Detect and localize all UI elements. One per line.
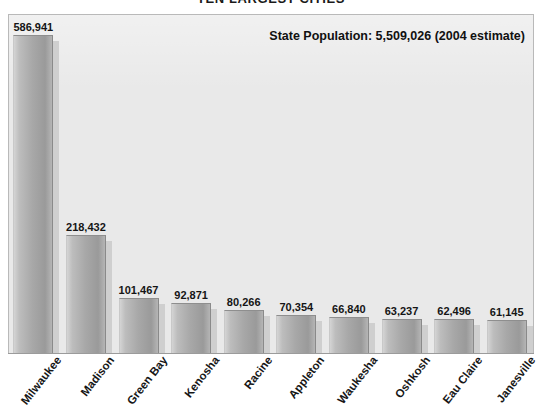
bar-value-label: 92,871 — [174, 289, 208, 301]
bar-value-label: 63,237 — [385, 305, 419, 317]
x-axis-label-text: Racine — [241, 354, 274, 391]
bar-slot: 63,237 — [382, 301, 430, 353]
x-axis-label-text: Oshkosh — [392, 354, 432, 400]
bar-slot: 62,496 — [434, 301, 482, 353]
bar[interactable] — [13, 35, 53, 353]
bar-slot: 66,840 — [329, 299, 377, 353]
bar-value-label: 586,941 — [13, 21, 53, 33]
bar[interactable] — [171, 303, 211, 353]
bar[interactable] — [434, 319, 474, 353]
bar[interactable] — [224, 310, 264, 353]
bar[interactable] — [329, 317, 369, 353]
bar-value-label: 61,145 — [490, 306, 524, 318]
bar-slot: 70,354 — [276, 297, 324, 353]
bar-series: 586,941218,432101,46792,87180,26670,3546… — [9, 15, 533, 353]
bar[interactable] — [66, 235, 106, 353]
plot-area: State Population: 5,509,026 (2004 estima… — [8, 14, 534, 354]
bar-value-label: 101,467 — [119, 284, 159, 296]
bar-slot: 61,145 — [487, 302, 534, 353]
x-axis-label-text: Madison — [78, 354, 116, 398]
bar-slot: 218,432 — [66, 217, 114, 353]
bar-slot: 101,467 — [119, 280, 167, 353]
bar-value-label: 80,266 — [227, 296, 261, 308]
bar-slot: 80,266 — [224, 292, 272, 353]
bar-value-label: 66,840 — [332, 303, 366, 315]
chart-title: TEN LARGEST CITIES — [0, 0, 542, 6]
bar-slot: 586,941 — [13, 17, 61, 353]
x-axis-label-text: Appleton — [287, 354, 327, 401]
x-axis-label-text: Eau Claire — [440, 354, 484, 406]
bar-slot: 92,871 — [171, 285, 219, 353]
state-population-annotation: State Population: 5,509,026 (2004 estima… — [269, 29, 525, 43]
x-axis-label-text: Waukesha — [335, 354, 379, 406]
x-axis-label-text: Milwaukee — [19, 354, 64, 407]
bar[interactable] — [382, 319, 422, 353]
bar-value-label: 70,354 — [279, 301, 313, 313]
x-axis-label-text: Kenosha — [182, 354, 221, 400]
x-axis-category-labels: MilwaukeeMadisonGreen BayKenoshaRacineAp… — [0, 354, 542, 415]
bar-value-label: 218,432 — [66, 221, 106, 233]
bar[interactable] — [276, 315, 316, 353]
x-axis-label-text: Green Bay — [124, 354, 169, 407]
bar[interactable] — [487, 320, 527, 353]
bar[interactable] — [119, 298, 159, 353]
bar-value-label: 62,496 — [437, 305, 471, 317]
x-axis-label-text: Janesville — [494, 354, 537, 405]
